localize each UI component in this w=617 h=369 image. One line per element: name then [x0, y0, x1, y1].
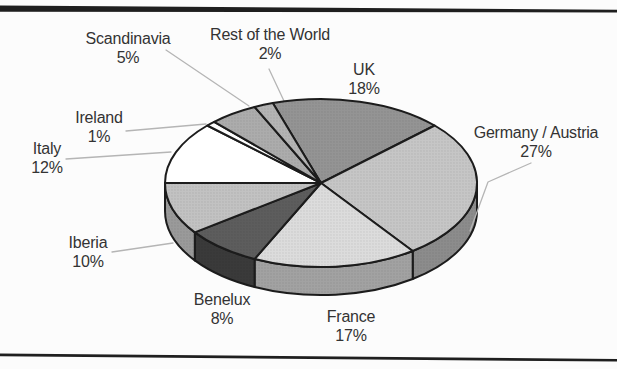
leader-line-italy [66, 152, 171, 159]
top-rule [0, 6, 617, 13]
bottom-rule [0, 354, 617, 362]
pie-slices [165, 99, 477, 267]
leader-line-germany-austria [470, 163, 531, 231]
leader-line-iberia [112, 243, 173, 252]
leader-line-scandinavia [166, 50, 249, 106]
scanned-chart-page: UK18%Germany / Austria27%France17%Benelu… [0, 0, 617, 369]
leader-line-ireland [126, 124, 206, 131]
pie-chart [0, 0, 617, 369]
leader-line-rest-of-the-world [269, 69, 284, 101]
